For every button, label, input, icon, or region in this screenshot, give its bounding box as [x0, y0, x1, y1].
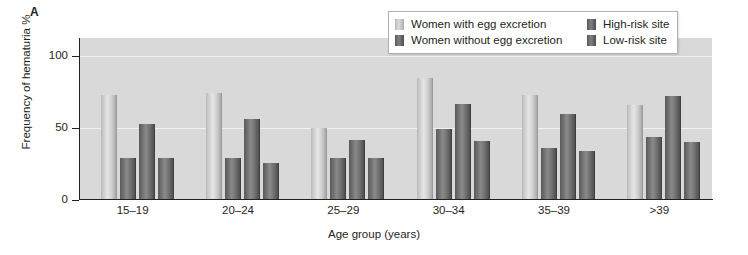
- legend-item: Women with egg excretion: [395, 18, 587, 30]
- bar: [684, 142, 700, 200]
- y-axis-title: Frequency of hematuria %: [20, 0, 32, 172]
- y-axis-tick-label-wrap: 100: [0, 49, 68, 61]
- legend-row: Women without egg excretionLow-risk site: [395, 32, 669, 48]
- bar: [665, 96, 681, 200]
- legend-swatch-icon: [395, 19, 404, 30]
- x-axis-tick-label: >39: [607, 204, 712, 216]
- y-axis-tick-label-wrap: 0: [0, 193, 68, 205]
- legend-label: High-risk site: [603, 18, 669, 30]
- y-axis-line: [79, 38, 80, 200]
- bar: [263, 163, 279, 200]
- y-axis-tick-label: 0: [62, 193, 68, 205]
- bar: [139, 124, 155, 200]
- legend-item: Women without egg excretion: [395, 34, 587, 46]
- bar: [158, 158, 174, 200]
- y-axis-tick-label-wrap: 50: [0, 121, 68, 133]
- bar: [579, 151, 595, 200]
- y-axis-tick: [72, 56, 79, 57]
- x-axis-tick-label: 20–24: [185, 204, 290, 216]
- bar-group: [627, 38, 699, 200]
- bar: [627, 105, 643, 200]
- bar: [311, 128, 327, 200]
- plot-area: [80, 38, 712, 200]
- bar: [101, 95, 117, 200]
- legend-swatch-icon: [587, 35, 596, 46]
- bar: [436, 129, 452, 200]
- legend-label: Women without egg excretion: [411, 34, 562, 46]
- bar: [541, 148, 557, 200]
- legend: Women with egg excretionHigh-risk siteWo…: [388, 11, 678, 54]
- gridline: [80, 128, 712, 129]
- bar: [225, 158, 241, 200]
- bar-group: [206, 38, 278, 200]
- x-axis-tick-label: 25–29: [291, 204, 396, 216]
- legend-item: Low-risk site: [587, 34, 667, 46]
- x-axis-tick-label: 30–34: [396, 204, 501, 216]
- bar: [368, 158, 384, 200]
- bar: [120, 158, 136, 200]
- bar: [474, 141, 490, 200]
- bar-group: [101, 38, 173, 200]
- legend-label: Women with egg excretion: [411, 18, 546, 30]
- x-axis-title: Age group (years): [0, 228, 748, 240]
- y-axis-tick-label: 50: [55, 121, 68, 133]
- bar: [330, 158, 346, 200]
- bar: [646, 137, 662, 200]
- legend-label: Low-risk site: [603, 34, 667, 46]
- y-axis-tick: [72, 128, 79, 129]
- figure-panel-a: A 050100 Frequency of hematuria % 15–192…: [0, 0, 748, 255]
- bar: [206, 93, 222, 200]
- bar-group: [522, 38, 594, 200]
- bar: [349, 140, 365, 200]
- bar: [522, 95, 538, 200]
- y-axis-tick: [72, 200, 79, 201]
- bar-group: [417, 38, 489, 200]
- y-axis-tick-label: 100: [49, 49, 68, 61]
- legend-swatch-icon: [587, 19, 596, 30]
- legend-item: High-risk site: [587, 18, 669, 30]
- gridline: [80, 56, 712, 57]
- bar: [244, 119, 260, 200]
- bar: [455, 104, 471, 200]
- bar-group: [311, 38, 383, 200]
- x-axis-tick-label: 35–39: [501, 204, 606, 216]
- bar: [560, 114, 576, 200]
- x-axis-tick-label: 15–19: [80, 204, 185, 216]
- bar: [417, 78, 433, 200]
- x-axis-line: [79, 199, 713, 200]
- legend-swatch-icon: [395, 35, 404, 46]
- legend-row: Women with egg excretionHigh-risk site: [395, 16, 669, 32]
